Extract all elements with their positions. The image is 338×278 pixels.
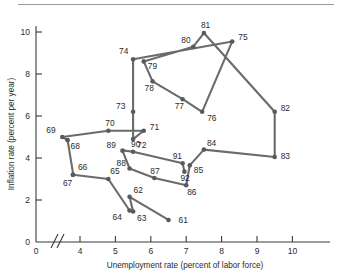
- data-point-74: [131, 57, 136, 62]
- point-label-71: 71: [150, 122, 160, 132]
- data-point-85: [187, 163, 192, 168]
- x-axis-ticks: [80, 236, 292, 242]
- point-label-91: 91: [173, 151, 183, 161]
- point-label-85: 85: [194, 165, 204, 175]
- figure-root: 045678910 0246810 6162636465666768697071…: [0, 0, 338, 278]
- point-label-81: 81: [201, 20, 211, 30]
- y-tick-label: 4: [25, 153, 30, 163]
- point-label-92: 92: [180, 173, 190, 183]
- x-axis-title: Unemployment rate (percent of labor forc…: [107, 261, 264, 270]
- x-tick-label: 10: [288, 246, 298, 256]
- x-tick-label: 0: [34, 246, 39, 256]
- x-tick-label: 4: [78, 246, 83, 256]
- data-point-62: [127, 195, 132, 200]
- x-axis-tick-labels: 045678910: [34, 246, 298, 256]
- data-point-70: [106, 128, 111, 133]
- x-tick-label: 5: [113, 246, 118, 256]
- data-point-64: [127, 208, 132, 213]
- data-point-84: [202, 147, 207, 152]
- data-point-90: [131, 149, 136, 154]
- data-point-73: [131, 110, 136, 115]
- data-point-89: [120, 148, 125, 153]
- data-point-75: [230, 39, 235, 44]
- x-tick-label: 9: [255, 246, 260, 256]
- point-label-66: 66: [78, 162, 88, 172]
- data-point-81: [202, 31, 207, 36]
- data-point-91: [180, 161, 185, 166]
- point-label-77: 77: [175, 101, 185, 111]
- point-label-69: 69: [46, 125, 56, 135]
- point-label-74: 74: [119, 46, 129, 56]
- data-point-68: [65, 138, 70, 143]
- point-label-64: 64: [113, 212, 123, 222]
- point-label-65: 65: [110, 166, 120, 176]
- point-label-70: 70: [105, 118, 115, 128]
- y-axis-title: Inflation rate (percent per year): [7, 78, 16, 191]
- point-label-80: 80: [181, 35, 191, 45]
- data-point-65: [106, 177, 111, 182]
- point-label-68: 68: [71, 141, 81, 151]
- data-point-67: [71, 173, 76, 178]
- data-point-83: [272, 155, 277, 160]
- x-tick-label: 8: [219, 246, 224, 256]
- point-label-90: 90: [131, 139, 141, 149]
- y-axis-ticks: [36, 32, 42, 200]
- point-label-82: 82: [281, 103, 291, 113]
- x-tick-label: 7: [184, 246, 189, 256]
- y-tick-label: 2: [25, 195, 30, 205]
- point-label-73: 73: [116, 101, 126, 111]
- x-axis-break-icon: [51, 234, 64, 248]
- point-label-89: 89: [106, 140, 116, 150]
- data-point-69: [60, 135, 65, 140]
- data-point-year-labels: 6162636465666768697071727374757677787980…: [46, 20, 290, 225]
- point-label-75: 75: [238, 32, 248, 42]
- point-label-84: 84: [207, 138, 217, 148]
- y-tick-label: 6: [25, 111, 30, 121]
- phillips-curve-chart: 045678910 0246810 6162636465666768697071…: [0, 0, 338, 278]
- point-label-88: 88: [117, 158, 127, 168]
- point-label-87: 87: [150, 166, 160, 176]
- point-label-63: 63: [137, 213, 147, 223]
- data-point-71: [141, 128, 146, 133]
- data-series-group: 6162636465666768697071727374757677787980…: [46, 20, 290, 225]
- point-label-62: 62: [134, 185, 144, 195]
- y-tick-label: 10: [21, 27, 31, 37]
- data-point-76: [200, 110, 205, 115]
- point-label-76: 76: [207, 113, 217, 123]
- data-point-80: [191, 44, 196, 49]
- point-label-67: 67: [63, 178, 73, 188]
- data-point-79: [141, 59, 146, 64]
- data-point-88: [127, 166, 132, 171]
- point-label-86: 86: [187, 187, 197, 197]
- data-point-87: [152, 176, 157, 181]
- data-point-61: [166, 218, 171, 223]
- data-point-82: [272, 110, 277, 115]
- y-axis-tick-labels: 0246810: [21, 27, 31, 247]
- point-label-79: 79: [148, 61, 158, 71]
- phillips-path-line: [62, 33, 274, 220]
- point-label-61: 61: [179, 215, 189, 225]
- point-label-83: 83: [281, 151, 291, 161]
- x-tick-label: 6: [148, 246, 153, 256]
- y-tick-label: 0: [25, 237, 30, 247]
- data-point-markers: [60, 31, 277, 223]
- y-tick-label: 8: [25, 69, 30, 79]
- point-label-78: 78: [145, 83, 155, 93]
